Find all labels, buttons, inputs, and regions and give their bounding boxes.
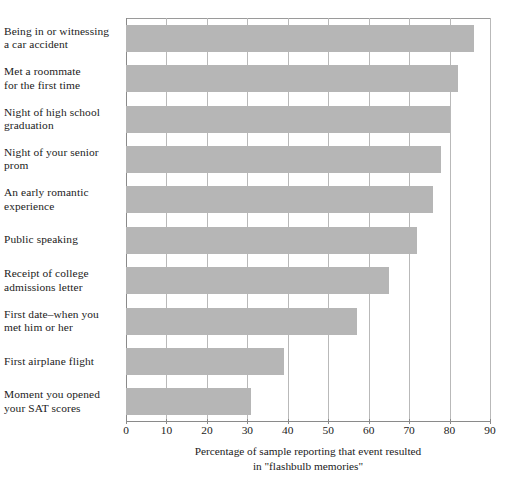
category-label-line: a car accident: [4, 38, 112, 52]
category-label-line: prom: [4, 159, 112, 173]
category-label-line: An early romantic: [4, 186, 112, 200]
x-tick-label-80: 80: [444, 424, 455, 436]
x-tick-label-70: 70: [403, 424, 414, 436]
category-label: Being in or witnessinga car accident: [4, 25, 112, 52]
category-label-line: First airplane flight: [4, 355, 112, 369]
x-tick-label-10: 10: [161, 424, 172, 436]
gridline-90: [490, 18, 491, 422]
category-label-line: Night of high school: [4, 106, 112, 120]
x-tick-label-30: 30: [242, 424, 253, 436]
category-label-line: Public speaking: [4, 233, 112, 247]
category-label-line: Being in or witnessing: [4, 25, 112, 39]
bar: [126, 348, 284, 375]
bars-layer: [126, 18, 490, 422]
bar: [126, 388, 251, 415]
category-label-line: Night of your senior: [4, 146, 112, 160]
bar: [126, 106, 450, 133]
bar: [126, 146, 441, 173]
category-label: First airplane flight: [4, 355, 112, 369]
x-tick-mark-60: [369, 419, 370, 424]
x-tick-label-50: 50: [323, 424, 334, 436]
category-label: First date–when youmet him or her: [4, 308, 112, 335]
axis-caption-line-2: in "flashbulb memories": [126, 459, 490, 474]
category-axis-labels: Being in or witnessinga car accidentMet …: [0, 18, 120, 422]
bar: [126, 186, 433, 213]
bar: [126, 25, 474, 52]
x-tick-label-90: 90: [484, 424, 495, 436]
x-tick-mark-30: [247, 419, 248, 424]
x-tick-mark-0: [126, 419, 127, 424]
x-tick-label-20: 20: [201, 424, 212, 436]
value-axis-tick-labels: 0102030405060708090: [126, 424, 490, 442]
category-label-line: Moment you opened: [4, 388, 112, 402]
x-tick-mark-50: [328, 419, 329, 424]
category-label-line: First date–when you: [4, 308, 112, 322]
category-label-line: experience: [4, 200, 112, 214]
x-tick-label-0: 0: [123, 424, 129, 436]
category-label-line: graduation: [4, 119, 112, 133]
x-tick-label-60: 60: [363, 424, 374, 436]
category-label: Receipt of collegeadmissions letter: [4, 267, 112, 294]
category-label-line: met him or her: [4, 321, 112, 335]
x-tick-mark-10: [166, 419, 167, 424]
x-tick-mark-40: [288, 419, 289, 424]
category-label-line: Met a roommate: [4, 65, 112, 79]
category-label: Public speaking: [4, 233, 112, 247]
bar: [126, 267, 389, 294]
category-label: Met a roommatefor the first time: [4, 65, 112, 92]
x-tick-label-40: 40: [282, 424, 293, 436]
x-tick-mark-80: [450, 419, 451, 424]
x-tick-mark-70: [409, 419, 410, 424]
bar: [126, 308, 357, 335]
axis-caption: Percentage of sample reporting that even…: [126, 444, 490, 473]
axis-caption-line-1: Percentage of sample reporting that even…: [126, 444, 490, 459]
category-label: Night of high schoolgraduation: [4, 106, 112, 133]
category-label: An early romanticexperience: [4, 186, 112, 213]
flashbulb-memories-bar-chart: Being in or witnessinga car accidentMet …: [0, 0, 519, 478]
category-label-line: admissions letter: [4, 281, 112, 295]
category-label-line: Receipt of college: [4, 267, 112, 281]
category-label: Night of your seniorprom: [4, 146, 112, 173]
category-label: Moment you openedyour SAT scores: [4, 388, 112, 415]
category-label-line: for the first time: [4, 79, 112, 93]
bar: [126, 227, 417, 254]
x-tick-mark-90: [490, 419, 491, 424]
bar: [126, 65, 458, 92]
x-tick-mark-20: [207, 419, 208, 424]
plot-area: [126, 18, 490, 422]
category-label-line: your SAT scores: [4, 402, 112, 416]
